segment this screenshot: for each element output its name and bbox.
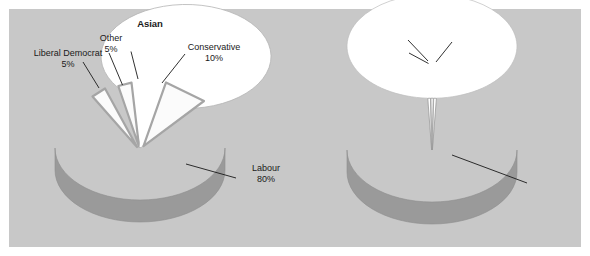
figure-canvas: Asian Liberal Democrat 5% Other 5% Conse… xyxy=(0,0,590,256)
chart-title-asian: Asian xyxy=(110,18,190,29)
callout-asian-conservative: Conservative 10% xyxy=(174,42,254,63)
chart-afro-caribbean: Afro-Caribbean Other < 1% Liberal Democr… xyxy=(295,0,590,256)
callout-label: Labour xyxy=(252,163,280,173)
callout-value: 5% xyxy=(16,59,120,70)
callout-label: Other xyxy=(100,33,123,43)
callout-value: 80% xyxy=(238,174,294,185)
callout-asian-labour: Labour 80% xyxy=(238,163,294,184)
callout-asian-other: Other 5% xyxy=(91,33,131,54)
chart-asian: Asian Liberal Democrat 5% Other 5% Conse… xyxy=(0,0,295,256)
callout-value: 10% xyxy=(174,53,254,64)
callout-value: 5% xyxy=(91,44,131,55)
callout-label: Conservative xyxy=(188,42,241,52)
